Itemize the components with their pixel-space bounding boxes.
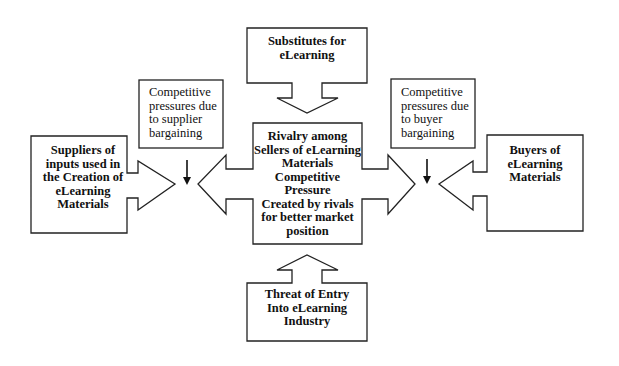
rivalry-label: Rivalry among Sellers of eLearning Mater…	[249, 130, 366, 238]
buyer-down-arrow-icon	[423, 159, 431, 184]
supplier-pressure-label: Competitive pressures due to supplier ba…	[149, 86, 223, 140]
suppliers-label: Suppliers of inputs used in the Creation…	[31, 144, 135, 212]
buyer-pressure-label: Competitive pressures due to buyer barga…	[401, 86, 475, 140]
substitutes-label: Substitutes for eLearning	[247, 35, 367, 62]
new-entrants-label: Threat of Entry Into eLearning Industry	[247, 288, 367, 329]
supplier-down-arrow-icon	[183, 160, 191, 185]
buyers-label: Buyers of eLearning Materials	[487, 144, 583, 185]
